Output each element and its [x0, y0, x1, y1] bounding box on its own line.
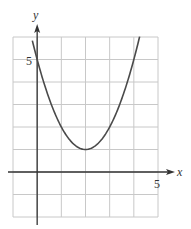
grid-lines: [13, 37, 158, 217]
y-tick-5-label: 5: [26, 55, 32, 67]
y-axis-label: y: [33, 9, 38, 21]
x-axis-label: x: [177, 166, 182, 178]
graph-canvas: [0, 0, 191, 229]
x-tick-5-label: 5: [154, 178, 160, 190]
